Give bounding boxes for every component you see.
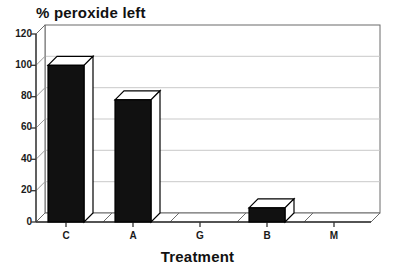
bar-b xyxy=(249,199,294,222)
bar-c xyxy=(48,56,93,222)
x-axis xyxy=(36,222,371,227)
bar-a xyxy=(115,91,160,222)
y-axis-ticks xyxy=(31,34,36,222)
x-axis-ticks xyxy=(66,222,334,227)
bar-chart: % peroxide left Treatment 120 100 80 60 … xyxy=(0,0,395,272)
y-axis xyxy=(31,34,36,222)
plot-area xyxy=(0,0,395,272)
